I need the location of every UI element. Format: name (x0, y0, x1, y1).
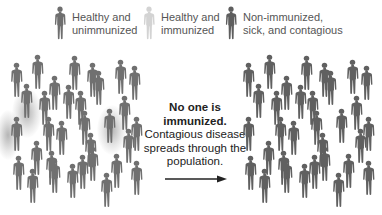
person-icon (362, 116, 375, 156)
legend-sick: Non-immunized, sick, and contagious (225, 6, 343, 44)
person-icon (308, 154, 321, 194)
person-icon (324, 70, 337, 110)
person-icon (280, 75, 293, 115)
person-icon (103, 108, 116, 148)
arrow-right-icon (165, 175, 227, 183)
caption-body: Contagious disease spreads through the p… (144, 128, 246, 167)
person-icon (335, 108, 348, 148)
person-icon (332, 172, 345, 212)
person-icon (54, 6, 66, 44)
person-icon (258, 168, 271, 208)
person-icon (346, 59, 359, 99)
legend-label: Healthy and unimmunized (72, 11, 137, 37)
legend-label: Healthy and immunized (161, 11, 220, 37)
person-icon (225, 6, 237, 44)
person-icon (10, 116, 23, 156)
person-icon (26, 168, 39, 208)
legend-healthy-immunized: Healthy and immunized (143, 6, 220, 44)
legend-label: Non-immunized, sick, and contagious (243, 11, 343, 37)
person-icon (277, 150, 290, 190)
person-icon (12, 155, 25, 195)
legend-healthy-unimmunized: Healthy and unimmunized (54, 6, 137, 44)
person-icon (242, 116, 255, 156)
right-population (232, 50, 382, 215)
person-icon (45, 150, 58, 190)
person-icon (114, 59, 127, 99)
person-icon (362, 160, 375, 200)
person-icon (48, 75, 61, 115)
person-icon (143, 6, 155, 44)
caption-heading: No one is immunized. (163, 101, 226, 127)
left-population (0, 50, 150, 215)
person-icon (92, 70, 105, 110)
person-icon (244, 155, 257, 195)
person-icon (100, 172, 113, 212)
person-icon (76, 154, 89, 194)
